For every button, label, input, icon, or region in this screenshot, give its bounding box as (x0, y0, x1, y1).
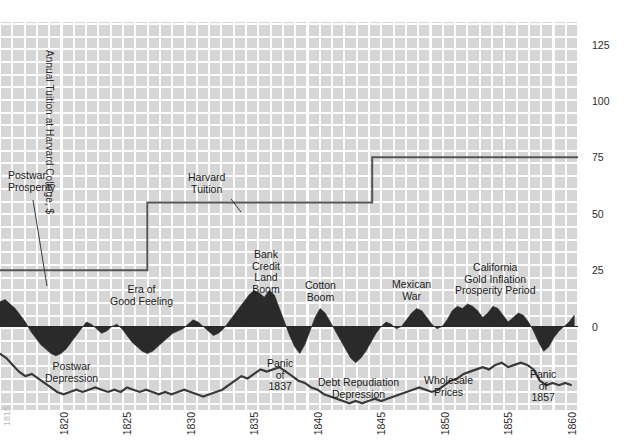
y-tick-50: 50 (592, 208, 604, 220)
x-axis-left-stub: 1815 (2, 406, 12, 426)
right-axis-title: Annual Tuition at Harvard College, $ (44, 50, 55, 214)
x-tick-1820: 1820 (58, 412, 70, 435)
x-axis: 182018251830183518401845185018551860 (0, 410, 578, 446)
x-tick-1850: 1850 (439, 412, 451, 435)
y-tick-125: 125 (592, 39, 610, 51)
y-tick-100: 100 (592, 95, 610, 107)
y-tick-0: 0 (592, 321, 598, 333)
y-tick-25: 25 (592, 264, 604, 276)
x-tick-1830: 1830 (185, 412, 197, 435)
right-axis: 0255075100125 (578, 22, 636, 410)
x-tick-1855: 1855 (502, 412, 514, 435)
annotation-leader-layer (0, 22, 578, 410)
plot-area: Postwar ProsperityHarvard TuitionEra of … (0, 22, 578, 410)
y-tick-75: 75 (592, 151, 604, 163)
x-tick-1835: 1835 (248, 412, 260, 435)
annotation-leader-harvard-tuition (231, 199, 241, 212)
x-tick-1840: 1840 (312, 412, 324, 435)
x-tick-1845: 1845 (375, 412, 387, 435)
x-tick-1825: 1825 (121, 412, 133, 435)
x-tick-1860: 1860 (566, 412, 578, 435)
chart-root: Postwar ProsperityHarvard TuitionEra of … (0, 0, 636, 446)
